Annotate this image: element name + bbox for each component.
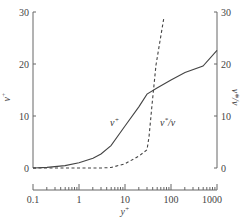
left-tick-30: 30 [19, 7, 29, 18]
x-tick-1: 1 [77, 194, 82, 205]
curve-vt-nu-dashed [33, 17, 164, 168]
right-tick-30: 30 [221, 7, 231, 18]
x-axis [33, 184, 217, 190]
svg-text:v+: v+ [0, 92, 12, 101]
right-y-axis [214, 12, 217, 168]
right-axis-title: v*/v [230, 89, 240, 106]
right-tick-0: 0 [221, 163, 226, 174]
curve-label-v-plus: v+ [110, 116, 119, 128]
left-tick-10: 10 [19, 111, 29, 122]
curve-label-vt-nu: v*/v [160, 116, 176, 128]
x-tick-10: 10 [120, 194, 130, 205]
left-y-axis [33, 12, 36, 168]
turbulent-velocity-profile-chart: 30 20 10 0 v+ 30 20 10 0 v*/v [0, 0, 240, 222]
svg-text:v*/v: v*/v [230, 89, 240, 106]
right-tick-20: 20 [221, 59, 231, 70]
x-tick-1000: 1000 [202, 194, 222, 205]
right-tick-10: 10 [221, 111, 231, 122]
left-tick-20: 20 [19, 59, 29, 70]
x-axis-title: y+ [119, 205, 129, 217]
curve-v-plus-solid [33, 50, 217, 168]
left-axis-title: v+ [0, 92, 12, 101]
x-tick-0.1: 0.1 [27, 194, 40, 205]
x-tick-100: 100 [164, 194, 179, 205]
left-tick-0: 0 [24, 163, 29, 174]
